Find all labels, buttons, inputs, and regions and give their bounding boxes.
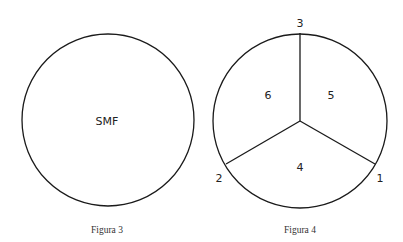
region-6-label: 6 xyxy=(265,89,272,102)
smf-label: SMF xyxy=(96,115,119,128)
point-2-label: 2 xyxy=(216,172,223,185)
figure-4-caption: Figura 4 xyxy=(284,225,316,235)
figure-4: 3 2 1 6 5 4 Figura 4 xyxy=(213,17,387,235)
point-1-label: 1 xyxy=(377,172,384,185)
diagram-canvas: SMF Figura 3 3 2 1 6 5 4 Figura 4 xyxy=(0,0,403,242)
radius-to-point-2 xyxy=(226,121,300,164)
region-5-label: 5 xyxy=(328,89,335,102)
point-3-label: 3 xyxy=(297,17,304,30)
radius-to-point-1 xyxy=(300,121,375,164)
figure-3-caption: Figura 3 xyxy=(91,225,123,235)
figure-3: SMF Figura 3 xyxy=(22,34,194,235)
region-4-label: 4 xyxy=(297,161,304,174)
